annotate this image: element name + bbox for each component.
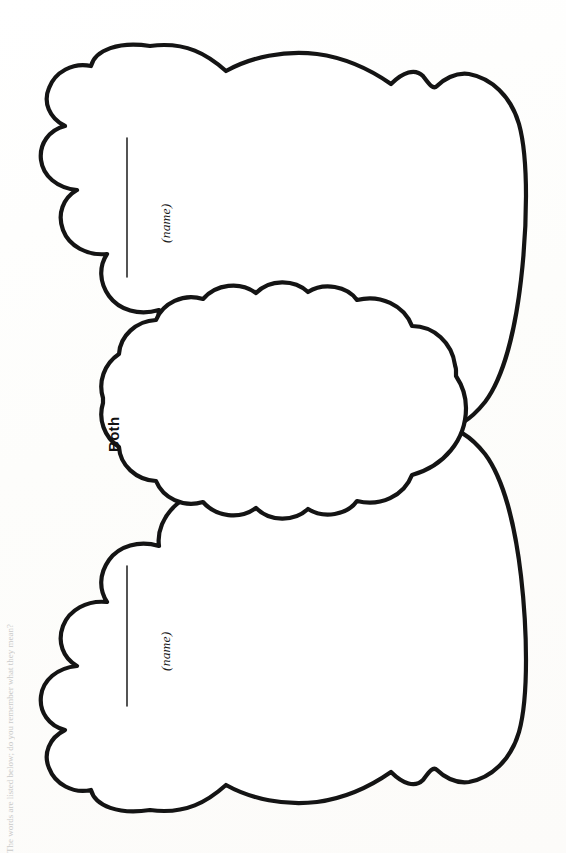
cloud-venn-diagram — [0, 0, 566, 853]
worksheet-page: (name) (name) Both The words are listed … — [0, 0, 566, 853]
